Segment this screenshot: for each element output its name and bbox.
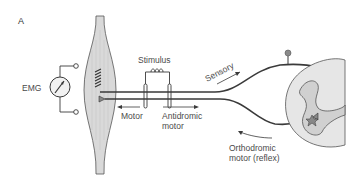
antidromic-label-1: Antidromic [162, 111, 203, 121]
antidromic-arrow-icon [194, 105, 199, 109]
motor-arrow-icon [117, 105, 122, 109]
antidromic-label-2: motor [162, 121, 184, 131]
sensory-label: Sensory [203, 60, 236, 84]
spinal-cord [286, 59, 345, 147]
orthodromic-label-2: motor (reflex) [229, 153, 280, 163]
orthodromic-label-1: Orthodromic [229, 143, 277, 153]
panel-label: A [18, 16, 24, 26]
motor-label: Motor [121, 111, 143, 121]
dorsal-root-ganglion [285, 50, 291, 56]
emg-label: EMG [22, 83, 41, 93]
emg-reflex-diagram: A EMG [0, 0, 363, 184]
emg-meter [50, 64, 78, 115]
stimulus-electrodes [144, 69, 171, 108]
stimulus-label: Stimulus [138, 55, 171, 65]
muscle [84, 16, 116, 174]
